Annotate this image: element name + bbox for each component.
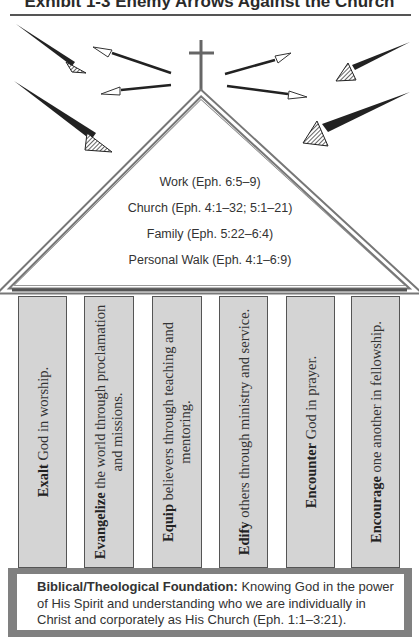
cross-icon (189, 40, 214, 93)
outgoing-arrow-upper-right (225, 53, 291, 74)
pillar-text: Evangelize the world through proclamatio… (92, 302, 126, 562)
enemy-arrow-bottom-left (14, 81, 112, 152)
pillar-text: Edify others through ministry and servic… (235, 302, 252, 562)
enemy-arrow-bottom-right (303, 92, 410, 146)
pillar-text: Encourage one another in fellowship. (367, 302, 384, 562)
pillar-equip: Equip believers through teaching and men… (152, 296, 202, 568)
roof-line-family: Family (Eph. 5:22–6:4) (100, 227, 320, 241)
outgoing-arrow-upper-left (93, 47, 171, 73)
roof-line-church: Church (Eph. 4:1–32; 5:1–21) (100, 201, 320, 215)
enemy-arrow-top-right (336, 42, 410, 81)
foundation-label: Biblical/Theological Foundation: (37, 579, 238, 594)
roof-line-personal-walk: Personal Walk (Eph. 4:1–6:9) (100, 253, 320, 267)
pillar-encounter: Encounter God in prayer. (286, 296, 335, 568)
pillar-text: Equip believers through teaching and men… (160, 302, 194, 562)
pillar-text: Encounter God in prayer. (302, 302, 319, 562)
pillar-text: Exalt God in worship. (34, 302, 51, 562)
enemy-arrow-top-left (16, 24, 86, 73)
outgoing-arrow-lower-left (101, 85, 171, 95)
pillar-edify: Edify others through ministry and servic… (219, 296, 268, 568)
roof-line-work: Work (Eph. 6:5–9) (100, 175, 320, 189)
pillar-exalt: Exalt God in worship. (18, 296, 67, 568)
pillar-encourage: Encourage one another in fellowship. (351, 296, 400, 568)
foundation-box: Biblical/Theological Foundation: Knowing… (8, 568, 412, 637)
pillar-evangelize: Evangelize the world through proclamatio… (84, 296, 134, 568)
outgoing-arrow-lower-right (227, 86, 307, 99)
foundation-text: Biblical/Theological Foundation: Knowing… (17, 574, 404, 630)
